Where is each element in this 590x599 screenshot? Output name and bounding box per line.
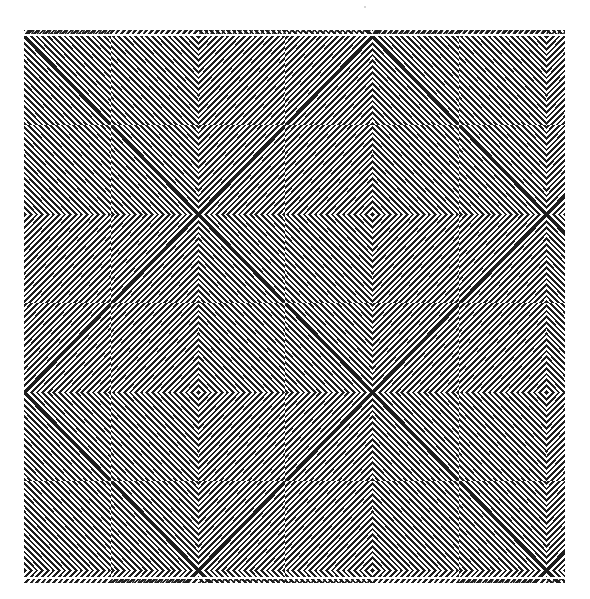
- op-art-pattern: [24, 30, 565, 583]
- artwork-frame: [24, 30, 565, 583]
- dust-speck: [364, 6, 366, 8]
